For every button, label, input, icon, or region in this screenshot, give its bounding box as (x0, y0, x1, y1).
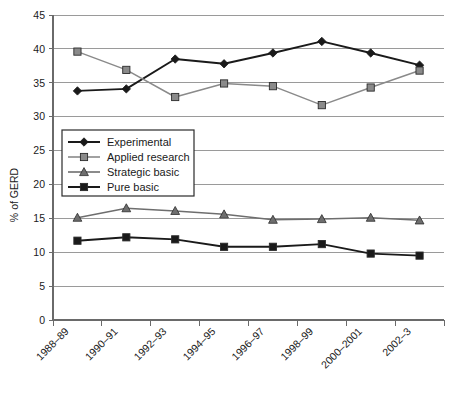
x-tick-label: 2000–2001 (318, 325, 364, 371)
data-point (318, 102, 325, 109)
x-tick-label: 1996–97 (229, 325, 267, 363)
y-tick-label: 40 (33, 43, 45, 55)
chart-legend: ExperimentalApplied researchStrategic ba… (62, 130, 194, 196)
data-point (367, 250, 374, 257)
series-strategic-basic (73, 204, 424, 224)
data-point (416, 67, 423, 74)
legend-marker-icon (80, 153, 87, 160)
legend-item-label: Experimental (107, 136, 171, 148)
x-tick-label: 1990–91 (82, 325, 120, 363)
x-tick-label: 1988–89 (33, 325, 71, 363)
x-tick-label: 1998–99 (278, 325, 316, 363)
data-point (171, 55, 179, 63)
chart-container: 051015202530354045 1988–891990–911992–93… (0, 0, 452, 393)
data-point (269, 243, 276, 250)
data-point (73, 87, 81, 95)
data-point (172, 236, 179, 243)
legend-item-experimental[interactable]: Experimental (68, 136, 171, 148)
x-tick-label: 1994–95 (180, 325, 218, 363)
data-point (366, 49, 374, 57)
legend-marker-icon (80, 183, 87, 190)
data-point (220, 243, 227, 250)
y-tick-label: 30 (33, 110, 45, 122)
data-point (269, 83, 276, 90)
y-tick-label: 15 (33, 212, 45, 224)
y-tick-label: 20 (33, 178, 45, 190)
series-line (77, 52, 419, 106)
x-axis-labels-group: 1988–891990–911992–931994–951996–971998–… (33, 325, 413, 371)
data-point (367, 84, 374, 91)
data-point (74, 48, 81, 55)
data-point (318, 37, 326, 45)
data-point (416, 252, 423, 259)
legend-item-label: Applied research (107, 151, 190, 163)
y-tick-label: 0 (39, 314, 45, 326)
data-point (172, 93, 179, 100)
y-tick-label: 10 (33, 246, 45, 258)
data-point (123, 234, 130, 241)
y-tick-label: 25 (33, 144, 45, 156)
y-axis-ticks-group: 051015202530354045 (33, 9, 53, 326)
y-tick-label: 5 (39, 280, 45, 292)
line-chart: 051015202530354045 1988–891990–911992–93… (0, 0, 452, 393)
series-pure-basic (74, 234, 423, 260)
legend-item-label: Pure basic (107, 181, 159, 193)
data-point (74, 237, 81, 244)
data-point (122, 85, 130, 93)
data-point (318, 240, 325, 247)
x-axis-ticks-group (53, 320, 444, 326)
data-point (220, 80, 227, 87)
legend-item-label: Strategic basic (107, 166, 180, 178)
y-axis-title: % of GERD (8, 167, 20, 222)
x-tick-label: 1992–93 (131, 325, 169, 363)
y-tick-label: 35 (33, 77, 45, 89)
data-point (269, 49, 277, 57)
y-tick-label: 45 (33, 9, 45, 21)
data-point (123, 66, 130, 73)
data-point (220, 60, 228, 68)
x-tick-label: 2002–3 (380, 325, 413, 358)
